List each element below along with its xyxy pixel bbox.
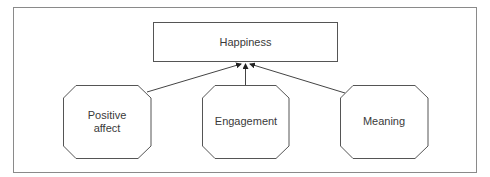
happiness-diagram: Happiness Positive affect Engagement Mea… [0,0,490,177]
node-meaning: Meaning [341,86,429,159]
engagement-label: Engagement [215,115,277,127]
node-positive-affect: Positive affect [64,86,152,159]
positive-affect-label-line1: Positive [88,109,127,121]
node-happiness: Happiness [154,23,338,62]
meaning-label: Meaning [363,115,405,127]
positive-affect-label-line2: affect [94,122,121,134]
happiness-label: Happiness [220,36,272,48]
node-engagement: Engagement [203,86,290,159]
diagram-canvas: Happiness Positive affect Engagement Mea… [0,0,490,177]
